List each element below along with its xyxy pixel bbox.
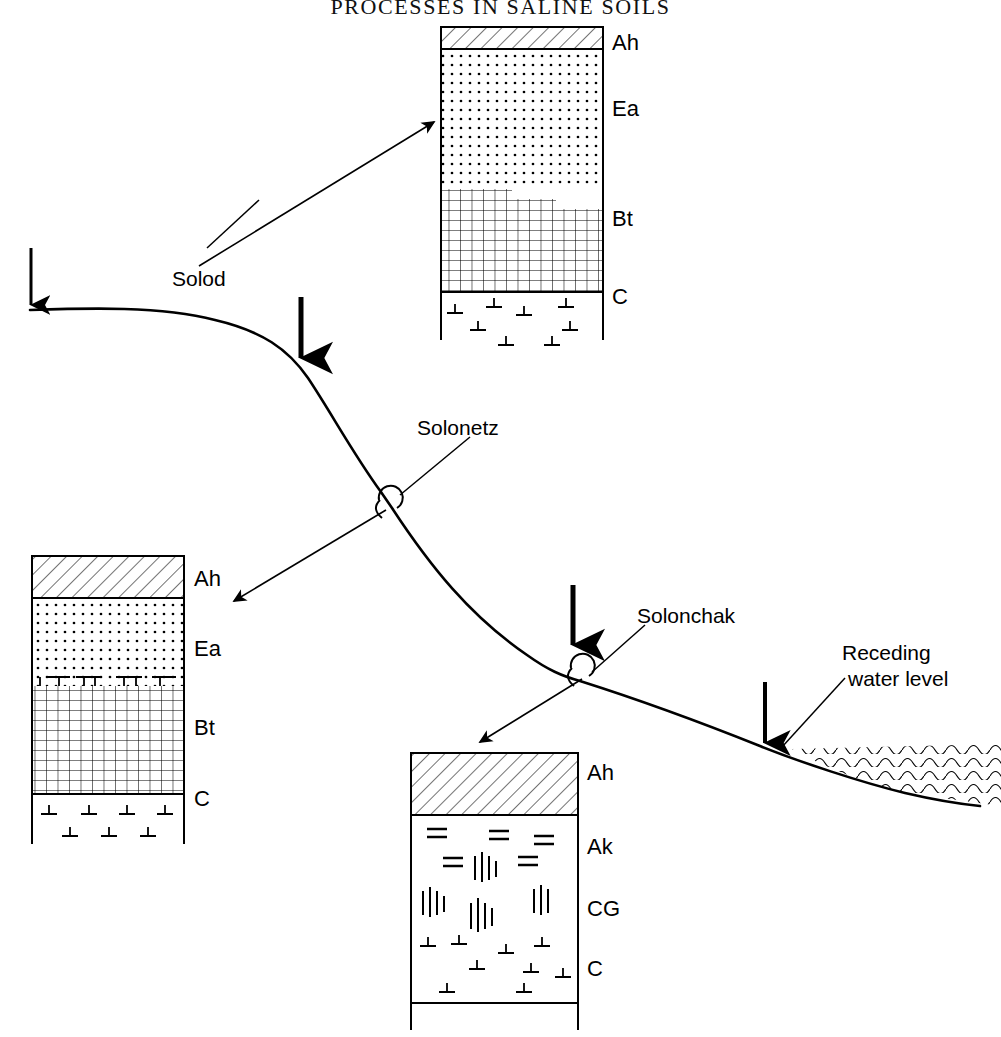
to-solonetz-profile	[234, 510, 386, 601]
solonchak-horizon-Ak	[411, 815, 578, 877]
receding-water-label-line1: Receding	[842, 640, 948, 666]
landscape-label-solod: Solod	[172, 267, 226, 291]
solonetz-horizon-Ea	[32, 598, 184, 686]
to-solod-profile	[199, 122, 434, 266]
solod-horizon-Bt	[441, 189, 603, 292]
solonchak-label-Ak: Ak	[587, 834, 613, 860]
solonchak-profile	[411, 753, 578, 1030]
solod-horizon-Ah	[441, 27, 603, 49]
solonchak-horizon-Ah	[411, 753, 578, 815]
solod-label-Ah: Ah	[612, 30, 639, 56]
solonchak-C-symbols	[420, 935, 571, 992]
solod-profile	[441, 27, 603, 345]
solonchak-label-C: C	[587, 956, 603, 982]
solonchak-label-CG: CG	[587, 896, 620, 922]
solonchak-label-Ah: Ah	[587, 760, 614, 786]
solonetz-label-Bt: Bt	[194, 715, 215, 741]
solod-label-Bt: Bt	[612, 206, 633, 232]
landscape-label-solonetz: Solonetz	[417, 416, 499, 440]
solonetz-leader	[400, 437, 470, 495]
figure-canvas: PROCESSES IN SALINE SOILS	[0, 0, 1001, 1037]
water-body	[792, 744, 1001, 806]
landscape-label-solonchak: Solonchak	[637, 604, 735, 628]
solonetz-label-Ah: Ah	[194, 566, 221, 592]
receding-water-label: Receding water level	[842, 640, 948, 692]
solonchak-leader	[592, 625, 645, 672]
solonetz-profile	[32, 556, 184, 844]
to-solonchak-profile	[480, 679, 582, 742]
solonetz-C-symbols	[41, 805, 173, 836]
solod-C-symbols	[447, 298, 578, 345]
receding-water-label-line2: water level	[842, 666, 948, 692]
solonchak-salt-symbols	[427, 829, 554, 866]
solonetz-label-Ea: Ea	[194, 636, 221, 662]
water-leader	[782, 678, 845, 747]
solod-horizon-Ea	[441, 49, 603, 189]
solod-leader	[207, 200, 259, 248]
solonetz-horizon-Bt	[32, 686, 184, 794]
solonetz-label-C: C	[194, 786, 210, 812]
solod-label-C: C	[612, 284, 628, 310]
solonetz-horizon-Ah	[32, 556, 184, 598]
solod-label-Ea: Ea	[612, 96, 639, 122]
diagram-svg	[0, 0, 1001, 1037]
